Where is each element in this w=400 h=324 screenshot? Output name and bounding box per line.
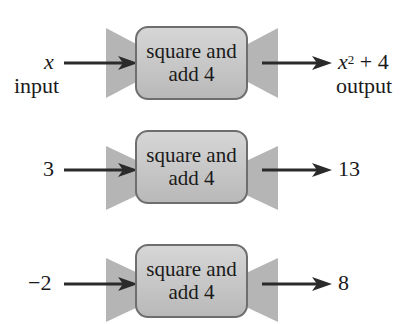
box-line-1: square and (137, 40, 246, 63)
input-value: −2 (28, 271, 51, 295)
box-line-1: square and (137, 258, 246, 281)
output-value: x2 + 4 (338, 50, 389, 74)
box-line-1: square and (137, 144, 246, 167)
function-machine-2: square and add 4 3 13 (0, 120, 400, 220)
function-box: square and add 4 (135, 244, 248, 318)
output-funnel-icon (244, 258, 278, 322)
box-line-2: add 4 (137, 167, 246, 190)
function-box: square and add 4 (135, 26, 248, 100)
input-caption: input (14, 74, 59, 98)
function-machine-1: square and add 4 x input x2 + 4 output (0, 12, 400, 112)
box-line-2: add 4 (137, 63, 246, 86)
output-funnel-icon (244, 146, 278, 210)
output-value: 13 (338, 157, 360, 181)
output-value: 8 (338, 271, 349, 295)
input-value: 3 (43, 157, 54, 181)
function-box: square and add 4 (135, 130, 248, 204)
output-caption: output (336, 74, 392, 98)
input-value: x (44, 50, 54, 74)
function-machine-3: square and add 4 −2 8 (0, 224, 400, 324)
box-line-2: add 4 (137, 281, 246, 304)
